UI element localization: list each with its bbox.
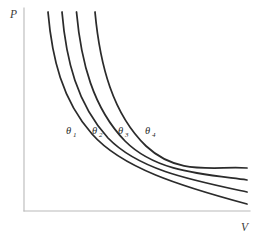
- curve-label-theta-3-base: θ: [118, 125, 123, 136]
- curve-label-theta-3-subscript: 3: [124, 131, 129, 139]
- curve-label-theta-1: θ 1: [66, 125, 77, 139]
- isotherm-curve-theta-3: [77, 12, 248, 180]
- isotherm-curves-group: [48, 12, 247, 204]
- isotherm-curve-theta-4: [95, 12, 247, 168]
- isotherm-curve-theta-2: [62, 12, 247, 192]
- curve-label-theta-4: θ 4: [145, 125, 156, 139]
- curve-label-theta-2-base: θ: [92, 125, 97, 136]
- curve-label-theta-2-subscript: 2: [99, 131, 103, 139]
- y-axis-label: P: [9, 8, 17, 20]
- curve-label-theta-3: θ 3: [118, 125, 129, 139]
- curve-label-theta-4-base: θ: [145, 125, 150, 136]
- curve-label-theta-4-subscript: 4: [152, 131, 156, 139]
- curve-label-theta-1-subscript: 1: [73, 131, 77, 139]
- axes-group: [24, 8, 250, 211]
- x-axis-label: V: [241, 221, 250, 233]
- curve-labels-group: θ 1 θ 2 θ 3 θ 4: [66, 125, 156, 139]
- pv-diagram-canvas: P V θ 1 θ 2 θ 3 θ 4: [0, 0, 260, 237]
- isotherm-curve-theta-1: [48, 12, 247, 204]
- pv-isotherm-figure: P V θ 1 θ 2 θ 3 θ 4: [0, 0, 260, 237]
- curve-label-theta-1-base: θ: [66, 125, 71, 136]
